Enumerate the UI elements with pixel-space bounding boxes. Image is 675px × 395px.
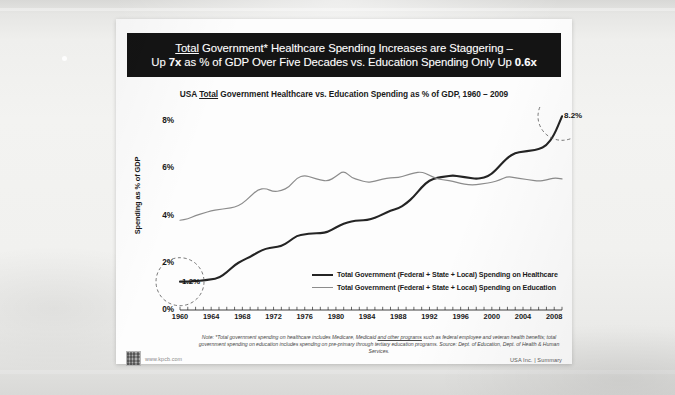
kpcb-url-label: www.kpcb.com — [145, 356, 182, 362]
headline-text: Total Government* Healthcare Spending In… — [151, 41, 536, 70]
y-tick-8pct: 8% — [148, 116, 174, 125]
y-tick-6pct: 6% — [148, 163, 174, 172]
x-tick-1964: 1964 — [196, 312, 226, 321]
legend-label-healthcare: Total Government (Federal + State + Loca… — [337, 271, 558, 279]
chart-series-group — [180, 116, 562, 281]
headline-multiplier-7x: 7x — [169, 56, 181, 68]
background-streak — [0, 8, 675, 11]
x-tick-2004: 2004 — [508, 312, 538, 321]
series-line-education — [180, 172, 562, 220]
x-tick-1988: 1988 — [383, 312, 413, 321]
series-line-healthcare — [180, 116, 562, 281]
slide-card: Total Government* Healthcare Spending In… — [116, 19, 572, 364]
annotation-end-value: 8.2% — [564, 111, 582, 120]
headline-total-underlined: Total — [175, 42, 199, 54]
x-tick-1996: 1996 — [446, 312, 476, 321]
legend-line-education-icon — [312, 287, 333, 288]
x-tick-1976: 1976 — [290, 312, 320, 321]
x-tick-1960: 1960 — [165, 312, 195, 321]
background-streak — [0, 370, 675, 374]
chart-title-a: USA — [180, 89, 199, 99]
legend-line-healthcare-icon — [312, 274, 333, 276]
y-tick-2pct: 2% — [148, 258, 174, 267]
chart-title-c: Government Healthcare vs. Education Spen… — [218, 89, 508, 99]
footnote-a: Note: *Total government spending on heal… — [202, 334, 378, 340]
footnote: Note: *Total government spending on heal… — [196, 334, 562, 356]
x-tick-1972: 1972 — [259, 312, 289, 321]
chart-title-total-underlined: Total — [199, 89, 218, 99]
x-tick-1968: 1968 — [227, 312, 257, 321]
kpcb-logo-icon — [126, 351, 141, 366]
chart-legend: Total Government (Federal + State + Loca… — [312, 268, 582, 294]
x-tick-2008: 2008 — [539, 312, 569, 321]
x-tick-1980: 1980 — [321, 312, 351, 321]
legend-row-healthcare: Total Government (Federal + State + Loca… — [312, 268, 582, 281]
headline-multiplier-06x: 0.6x — [515, 56, 537, 68]
x-tick-2000: 2000 — [477, 312, 507, 321]
legend-row-education: Total Government (Federal + State + Loca… — [312, 281, 582, 294]
footnote-underlined-phrase: and other programs — [378, 334, 422, 340]
annotation-start-value: 1.2% — [182, 277, 200, 286]
legend-label-education: Total Government (Federal + State + Loca… — [337, 284, 556, 292]
x-tick-1992: 1992 — [414, 312, 444, 321]
attribution-text: USA Inc. | Summary — [510, 357, 562, 363]
headline-line2-a: Up — [151, 56, 168, 68]
background-speck — [62, 56, 67, 61]
headline-line2-c: as % of GDP Over Five Decades vs. Educat… — [181, 56, 515, 68]
x-tick-1984: 1984 — [352, 312, 382, 321]
kpcb-footer: www.kpcb.com — [126, 351, 182, 366]
headline-banner: Total Government* Healthcare Spending In… — [127, 33, 561, 77]
y-tick-4pct: 4% — [148, 211, 174, 220]
headline-line1-rest: Government* Healthcare Spending Increase… — [199, 42, 513, 54]
chart-axes — [180, 307, 562, 310]
chart-title: USA Total Government Healthcare vs. Educ… — [116, 89, 572, 99]
